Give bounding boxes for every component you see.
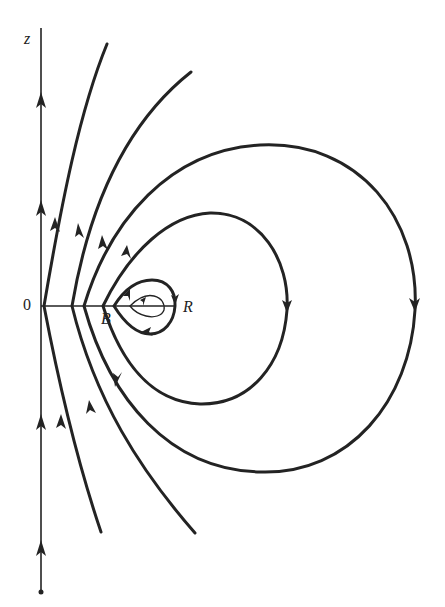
streamline-diagram: z 0 B R xyxy=(0,0,445,607)
z-axis-label: z xyxy=(24,31,30,47)
arrow-icon xyxy=(75,223,84,238)
diagram-canvas xyxy=(0,0,445,607)
arrow-icon xyxy=(86,400,96,414)
arrow-icon xyxy=(56,414,66,429)
middle-loop xyxy=(103,213,287,404)
outer-loop xyxy=(84,145,415,472)
origin-label: 0 xyxy=(23,297,31,313)
arrow-icon xyxy=(98,235,108,250)
inner-loop xyxy=(114,280,175,334)
arrow-icon xyxy=(121,245,131,259)
point-r-label: R xyxy=(183,299,193,315)
point-b-label: B xyxy=(101,311,111,327)
axis-end-dot xyxy=(39,590,44,595)
